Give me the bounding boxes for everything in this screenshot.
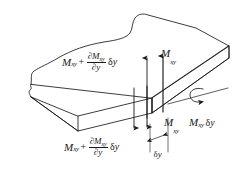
label-dimension-dy: δy	[152, 144, 162, 160]
top-left-delta-var: y	[113, 57, 117, 67]
label-top-right-moment: Mxy	[161, 44, 176, 63]
top-left-den-symbol: y	[96, 62, 100, 72]
moment-axis-line	[168, 88, 228, 104]
top-left-denominator: ∂y	[91, 63, 101, 72]
couple-base-symbol: M	[189, 117, 198, 128]
top-left-base-symbol: M	[62, 57, 71, 68]
bottom-left-den-symbol: y	[98, 147, 102, 157]
top-left-operator: +	[77, 57, 86, 67]
bottom-left-operator: +	[79, 142, 88, 152]
bottom-left-numerator: ∂Mxy	[89, 137, 108, 146]
bottom-right-base-symbol: M	[164, 116, 173, 128]
top-right-base-subscript: xy	[170, 58, 176, 66]
slab-top-face	[31, 14, 229, 98]
top-right-base-symbol: M	[161, 47, 170, 59]
bottom-left-denominator: ∂y	[93, 148, 103, 157]
bottom-left-num-symbol: M	[94, 136, 102, 146]
label-couple-moment: Mxy δy	[189, 113, 215, 129]
top-left-num-subscript: xy	[100, 56, 105, 62]
bottom-left-num-subscript: xy	[102, 141, 107, 147]
bottom-left-delta-var: y	[115, 142, 119, 152]
slab-front-bottom-edge	[31, 97, 78, 131]
couple-delta-var: y	[210, 118, 214, 128]
top-left-numerator: ∂Mxy	[87, 52, 106, 61]
bottom-left-base-subscript: xy	[73, 146, 79, 153]
couple-base-subscript: xy	[198, 122, 204, 129]
top-left-num-symbol: M	[92, 51, 100, 61]
label-top-left-moment: Mxy + ∂Mxy ∂y δy	[62, 52, 117, 73]
bottom-left-base-symbol: M	[64, 142, 73, 153]
label-bottom-left-moment: Mxy + ∂Mxy ∂y δy	[64, 137, 119, 158]
bottom-right-base-subscript: xy	[173, 127, 179, 135]
dimension-arrow-dy	[151, 134, 167, 140]
plate-moment-diagram: Mxy + ∂Mxy ∂y δy Mxy Mxy + ∂Mxy	[0, 0, 234, 176]
top-left-fraction: ∂Mxy ∂y	[86, 52, 107, 73]
bottom-left-fraction: ∂Mxy ∂y	[88, 137, 109, 158]
top-left-base-subscript: xy	[71, 61, 77, 68]
dimension-delta-var: y	[158, 149, 162, 159]
label-bottom-right-moment: Mxy	[164, 113, 179, 132]
slab-torn-edge-left	[29, 84, 31, 97]
